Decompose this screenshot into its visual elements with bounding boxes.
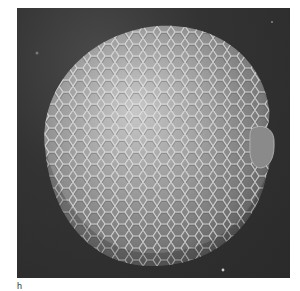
hilum — [250, 127, 274, 169]
seed-image — [17, 8, 290, 278]
panel-label: h — [17, 281, 22, 291]
sem-micrograph — [17, 8, 290, 278]
